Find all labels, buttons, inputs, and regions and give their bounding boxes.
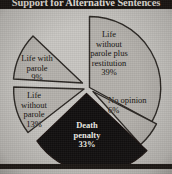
slice-label-line: without <box>21 100 47 110</box>
chart-plate: Life without parole plus restitution 39%… <box>0 9 172 169</box>
slice-label-line: penalty <box>74 130 101 140</box>
slice-value-no-opinion: 6% <box>108 106 170 116</box>
slice-label-no-opinion: No opinion 6% <box>108 96 170 115</box>
slice-label-line: parole plus <box>90 48 128 58</box>
slice-label-death-penalty: Death penalty 33% <box>56 121 118 150</box>
slice-label-line: parole <box>23 109 44 119</box>
bottom-rule <box>0 164 172 169</box>
slice-value-life-with-parole: 9% <box>8 73 66 83</box>
slice-label-life-with-parole: Life with parole 9% <box>8 54 66 83</box>
slice-label-line: No opinion <box>108 95 147 105</box>
slice-label-line: restitution <box>92 58 126 68</box>
slice-label-line: without <box>96 39 122 49</box>
slice-label-line: Life <box>27 90 41 100</box>
slice-label-line: parole <box>26 63 47 73</box>
slice-label-line: Life with <box>21 53 52 63</box>
page-title: Support for Alternative Sentences <box>12 0 160 8</box>
pie-chart-figure: Support for Alternative Sentences Life w… <box>0 0 172 174</box>
slice-value-restitution: 39% <box>76 68 142 78</box>
slice-label-restitution: Life without parole plus restitution 39% <box>76 30 142 78</box>
chart-title-bar: Support for Alternative Sentences <box>0 0 172 9</box>
slice-label-life-without-parole: Life without parole 13% <box>6 91 62 129</box>
slice-label-line: Life <box>102 29 116 39</box>
slice-label-line: Death <box>76 120 98 130</box>
slice-value-death-penalty: 33% <box>56 140 118 150</box>
slice-value-life-without-parole: 13% <box>6 120 62 130</box>
